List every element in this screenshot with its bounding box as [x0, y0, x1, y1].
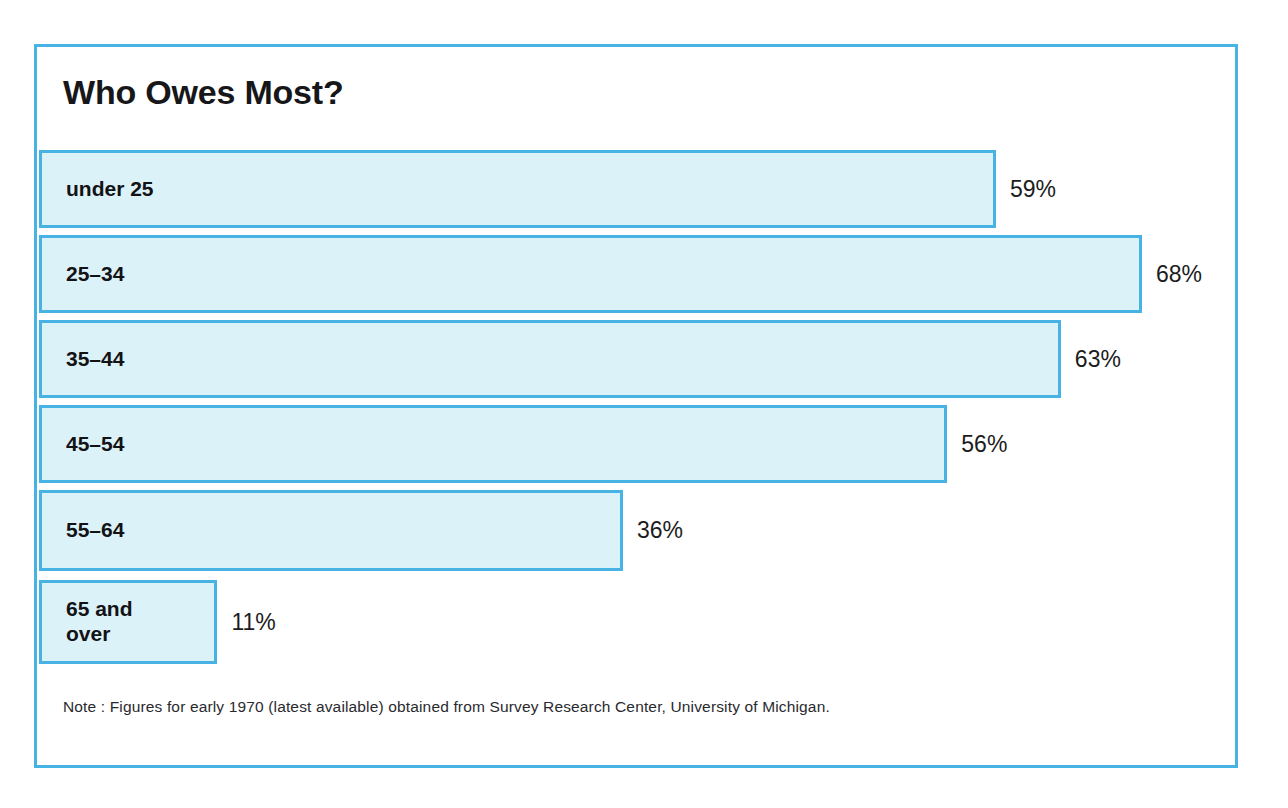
bar-row: 45–5456% [37, 405, 1235, 483]
chart-figure: Who Owes Most? under 2559%25–3468%35–446… [34, 44, 1238, 768]
bar-row: 65 and over11% [37, 580, 1235, 664]
footnote-note: Note : Figures for early 1970 (latest av… [63, 698, 830, 716]
bar-value-label: 11% [231, 580, 275, 664]
bar-category-label: 25–34 [66, 262, 124, 287]
bar-value-label: 68% [1156, 235, 1202, 313]
bar[interactable]: 35–44 [39, 320, 1061, 398]
bar[interactable]: under 25 [39, 150, 996, 228]
bar[interactable]: 25–34 [39, 235, 1142, 313]
bar-row: 55–6436% [37, 490, 1235, 571]
bar-chart-plot-area: under 2559%25–3468%35–4463%45–5456%55–64… [37, 150, 1235, 664]
bar-row: under 2559% [37, 150, 1235, 228]
bar[interactable]: 65 and over [39, 580, 217, 664]
bar[interactable]: 55–64 [39, 490, 623, 571]
bar-value-label: 59% [1010, 150, 1056, 228]
bar-category-label: under 25 [66, 177, 154, 202]
bar[interactable]: 45–54 [39, 405, 947, 483]
bar-value-label: 56% [961, 405, 1007, 483]
bar-category-label: 65 and over [66, 597, 133, 647]
page-title: Who Owes Most? [63, 73, 344, 112]
bar-value-label: 36% [637, 490, 683, 571]
bar-category-label: 35–44 [66, 347, 124, 372]
bar-value-label: 63% [1075, 320, 1121, 398]
bar-category-label: 55–64 [66, 518, 124, 543]
bar-row: 25–3468% [37, 235, 1235, 313]
title-block: Who Owes Most? [37, 47, 1235, 150]
bar-category-label: 45–54 [66, 432, 124, 457]
bar-row: 35–4463% [37, 320, 1235, 398]
